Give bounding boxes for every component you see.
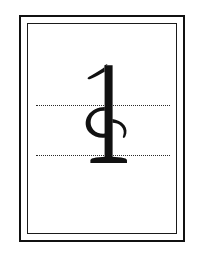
glyph-plate: 1: [0, 0, 202, 260]
writing-field: [28, 24, 176, 233]
phonetic-glyph: [78, 62, 130, 168]
